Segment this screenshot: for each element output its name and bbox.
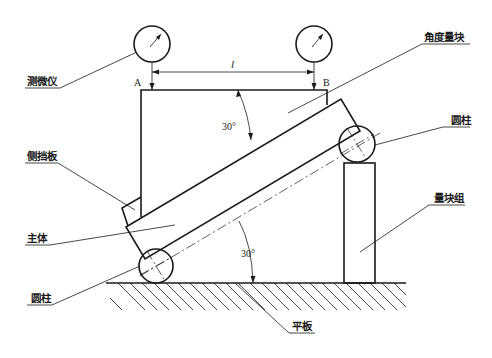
label-cylinder-right: 圆柱 [451,114,472,126]
angle-gauge-block [141,90,327,217]
upper-angle-marker: 30° [222,90,253,140]
label-cylinder-left: 圆柱 [31,292,52,304]
sine-bar-diagram: l A B 30° 30° 测微仪 侧挡板 主体 圆柱 角度量块 圆柱 [0,0,492,358]
dimension-l: l [152,58,314,75]
label-micrometer: 测微仪 [27,75,58,87]
label-surface-plate: 平板 [292,320,313,332]
label-angle-gauge-block: 角度量块 [424,31,465,43]
label-main-body: 主体 [27,232,48,244]
point-a-label: A [134,77,142,88]
cylinder-left [139,249,173,283]
dimension-l-label: l [231,58,234,70]
gauge-block-stack [344,163,375,283]
label-side-plate: 侧挡板 [27,150,58,162]
callout-micrometer: 测微仪 [25,52,137,88]
sine-bar-main-body [126,99,360,259]
cylinder-right [339,126,375,162]
callout-side-plate: 侧挡板 [25,150,135,210]
lower-angle-label: 30° [241,248,255,259]
upper-angle-label: 30° [222,121,236,132]
surface-plate [106,283,406,310]
callout-cylinder-right: 圆柱 [375,114,472,145]
callout-main-body: 主体 [25,225,175,245]
label-gauge-block-stack: 量块组 [434,192,465,204]
callout-cylinder-left: 圆柱 [27,266,140,305]
lower-angle-marker: 30° [239,221,256,283]
surface-plate-hatching [110,283,406,310]
side-plate [122,197,141,226]
point-b-label: B [323,77,330,88]
